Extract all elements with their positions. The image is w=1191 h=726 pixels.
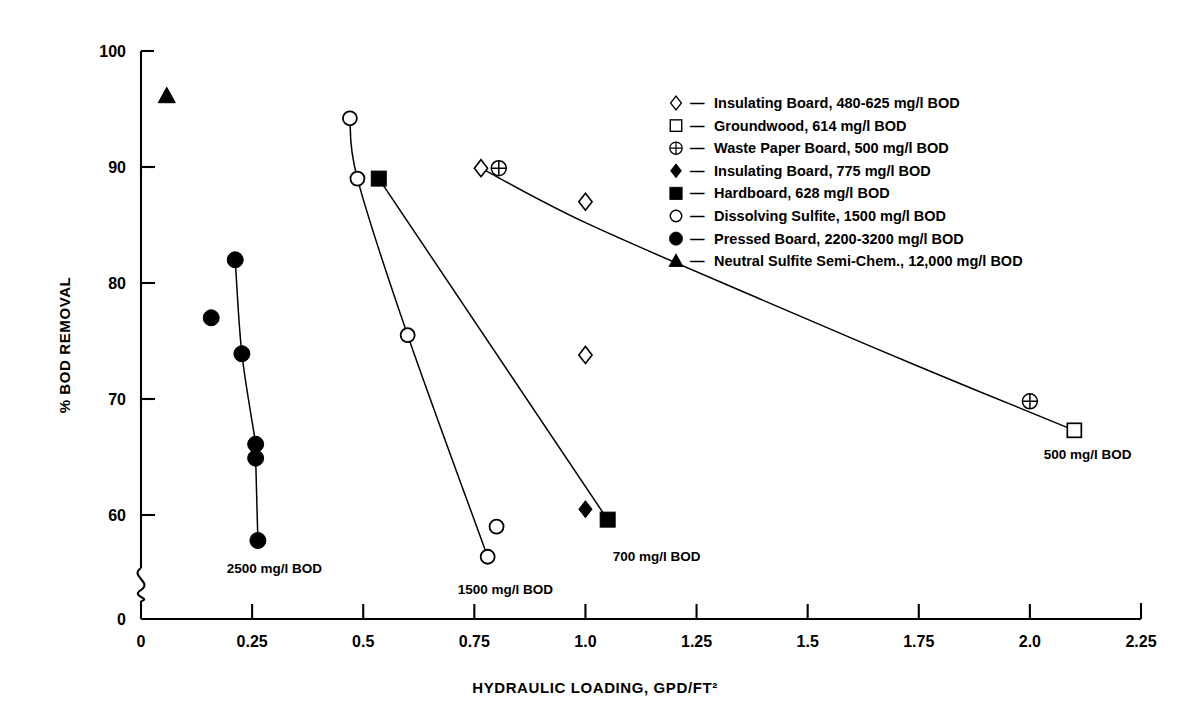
datapoint-insulating-board-775-mg-l-bod-0 (579, 501, 592, 518)
x-tick-label-0: 0 (137, 633, 146, 650)
x-tick-label-0.5: 0.5 (352, 633, 374, 650)
legend-marker-1 (670, 120, 681, 131)
datapoint-insulating-board-480-625-mg-l-bod-0 (474, 160, 487, 177)
x-tick-label-2.0: 2.0 (1019, 633, 1041, 650)
legend-label-0: Insulating Board, 480-625 mg/l BOD (714, 95, 960, 111)
legend-marker-6 (669, 232, 682, 245)
curve-label-700-mg-l-bod: 700 mg/l BOD (613, 549, 701, 564)
legend-dash-7: — (690, 253, 705, 269)
datapoint-hardboard-628-mg-l-bod-0 (371, 171, 386, 186)
legend-label-6: Pressed Board, 2200-3200 mg/l BOD (714, 231, 964, 247)
legend-label-2: Waste Paper Board, 500 mg/l BOD (714, 140, 949, 156)
legend-dash-3: — (690, 163, 705, 179)
y-tick-label-90: 90 (108, 159, 126, 176)
plot-canvas: 60708090100000.250.50.751.01.251.51.752.… (0, 0, 1191, 726)
datapoint-pressed-board-2200-3200-mg-l-bod-4 (248, 450, 264, 466)
x-tick-label-1.5: 1.5 (797, 633, 819, 650)
datapoint-pressed-board-2200-3200-mg-l-bod-2 (234, 346, 250, 362)
x-tick-label-1.75: 1.75 (903, 633, 934, 650)
legend-label-3: Insulating Board, 775 mg/l BOD (714, 163, 931, 179)
datapoint-dissolving-sulfite-1500-mg-l-bod-1 (350, 172, 364, 186)
x-tick-label-0.25: 0.25 (237, 633, 268, 650)
y-tick-label-zero: 0 (117, 611, 126, 628)
datapoint-dissolving-sulfite-1500-mg-l-bod-2 (401, 328, 415, 342)
bod-removal-chart: 60708090100000.250.50.751.01.251.51.752.… (0, 0, 1191, 726)
legend-dash-6: — (690, 231, 705, 247)
y-tick-label-80: 80 (108, 275, 126, 292)
datapoint-groundwood-614-mg-l-bod-0 (1067, 423, 1081, 437)
y-axis-title: % BOD REMOVAL (56, 277, 73, 414)
datapoint-hardboard-628-mg-l-bod-1 (600, 512, 615, 527)
curve-label-500-mg-l-bod: 500 mg/l BOD (1044, 447, 1132, 462)
y-tick-label-60: 60 (108, 507, 126, 524)
x-tick-label-0.75: 0.75 (459, 633, 490, 650)
legend-marker-4 (670, 187, 682, 199)
datapoint-neutral-sulfite-semi-chem-12-000-mg-l-bod-0 (158, 87, 175, 102)
x-tick-label-1.0: 1.0 (574, 633, 596, 650)
datapoint-dissolving-sulfite-1500-mg-l-bod-4 (481, 550, 495, 564)
legend-marker-0 (671, 96, 682, 110)
datapoint-insulating-board-480-625-mg-l-bod-1 (579, 193, 592, 210)
legend-label-1: Groundwood, 614 mg/l BOD (714, 118, 907, 134)
legend-marker-5 (670, 210, 681, 221)
x-tick-label-2.25: 2.25 (1125, 633, 1156, 650)
legend-dash-1: — (690, 118, 705, 134)
y-axis-break-squiggle (138, 568, 145, 601)
datapoint-waste-paper-board-500-mg-l-bod-1 (1022, 394, 1037, 409)
datapoint-pressed-board-2200-3200-mg-l-bod-0 (227, 252, 243, 268)
legend-marker-3 (671, 164, 682, 178)
legend-dash-4: — (690, 185, 705, 201)
datapoint-waste-paper-board-500-mg-l-bod-0 (491, 161, 506, 176)
curve-2500-mg-l-bod (235, 260, 258, 541)
datapoint-dissolving-sulfite-1500-mg-l-bod-0 (343, 111, 357, 125)
datapoint-dissolving-sulfite-1500-mg-l-bod-3 (490, 520, 504, 534)
legend-marker-2 (670, 142, 682, 154)
datapoint-insulating-board-480-625-mg-l-bod-2 (579, 346, 592, 363)
datapoint-pressed-board-2200-3200-mg-l-bod-5 (250, 533, 266, 549)
legend-label-7: Neutral Sulfite Semi-Chem., 12,000 mg/l … (714, 253, 1023, 269)
curve-label-2500-mg-l-bod: 2500 mg/l BOD (227, 561, 323, 576)
legend-dash-0: — (690, 95, 705, 111)
x-axis-title: HYDRAULIC LOADING, GPD/FT² (472, 679, 718, 696)
legend-label-5: Dissolving Sulfite, 1500 mg/l BOD (714, 208, 946, 224)
y-tick-label-100: 100 (99, 43, 126, 60)
x-tick-label-1.25: 1.25 (681, 633, 712, 650)
legend-label-4: Hardboard, 628 mg/l BOD (714, 185, 890, 201)
curve-label-1500-mg-l-bod: 1500 mg/l BOD (458, 582, 554, 597)
legend-dash-5: — (690, 208, 705, 224)
y-tick-label-70: 70 (108, 391, 126, 408)
curve-1500-mg-l-bod (350, 118, 488, 556)
datapoint-pressed-board-2200-3200-mg-l-bod-1 (203, 310, 219, 326)
legend-dash-2: — (690, 140, 705, 156)
